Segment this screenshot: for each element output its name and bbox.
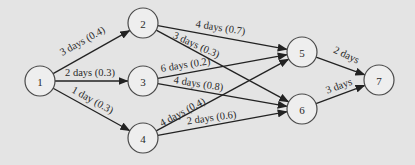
node-7: 7 (364, 65, 394, 95)
node-4: 4 (128, 123, 158, 153)
node-label-2: 2 (140, 18, 146, 30)
edge-label-5-to-7: 2 days (332, 44, 361, 65)
node-label-5: 5 (299, 47, 305, 59)
network-canvas: 3 days (0.4)2 days (0.3)1 day (0.3)4 day… (0, 0, 415, 165)
edge-label-2-to-5: 4 days (0.7) (195, 18, 247, 38)
node-label-1: 1 (37, 76, 43, 88)
edge-label-3-to-5: 6 days (0.2) (160, 55, 212, 75)
node-1: 1 (25, 66, 55, 96)
node-6: 6 (287, 94, 317, 124)
node-2: 2 (128, 8, 158, 38)
node-label-4: 4 (140, 133, 146, 145)
edge-label-6-to-7: 3 days (324, 76, 353, 96)
activity-network-diagram: 3 days (0.4)2 days (0.3)1 day (0.3)4 day… (0, 0, 415, 165)
node-label-6: 6 (299, 104, 305, 116)
node-3: 3 (128, 66, 158, 96)
edge-label-1-to-2: 3 days (0.4) (58, 24, 108, 59)
node-5: 5 (287, 37, 317, 67)
edge-label-1-to-3: 2 days (0.3) (65, 67, 115, 79)
node-label-7: 7 (376, 75, 382, 87)
node-label-3: 3 (140, 76, 146, 88)
